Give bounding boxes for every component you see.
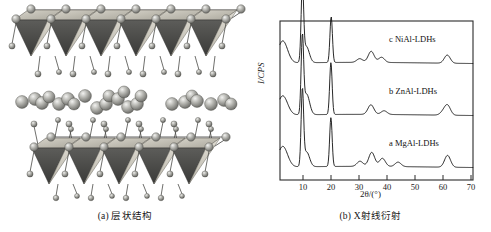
panel-b-caption: (b) X射线衍射: [250, 208, 491, 222]
xrd-curve-label: c NiAl-LDHs: [389, 34, 436, 44]
lower-layer-upper-hydroxyl-spheres: [31, 117, 214, 131]
xrd-curves: [280, 0, 473, 168]
xrd-curve: [280, 34, 473, 116]
figure-root: (a) 层状结构 I/CPS 10 20 30 40: [0, 0, 491, 232]
x-axis-ticks: [303, 175, 471, 180]
lower-hydroxide-layer: [27, 117, 230, 200]
panel-a-caption: (a) 层状结构: [0, 208, 250, 222]
x-axis-label: 2θ/(°): [250, 189, 491, 199]
xrd-curve: [280, 0, 473, 64]
xrd-curve-labels: c NiAl-LDHsb ZnAl-LDHsa MgAl-LDHs: [389, 34, 439, 148]
lower-wedge-row: [32, 138, 220, 184]
interlayer-gallery: [16, 86, 237, 114]
layered-structure-diagram: [0, 0, 250, 206]
panel-layered-structure: (a) 层状结构: [0, 0, 250, 232]
x-axis-label-text: 2θ/(°): [360, 189, 381, 199]
panel-xrd: I/CPS 10 20 30 40 50 60 70: [250, 0, 491, 232]
xrd-curve-label: b ZnAl-LDHs: [389, 86, 437, 96]
xrd-curve-label: a MgAl-LDHs: [389, 138, 439, 148]
xrd-plot: 10 20 30 40 50 60 70 c NiAl-LDHsb ZnAl-L…: [250, 0, 491, 190]
upper-hydroxide-layer: [9, 5, 245, 77]
upper-layer-hydroxyl-spheres: [9, 43, 225, 77]
